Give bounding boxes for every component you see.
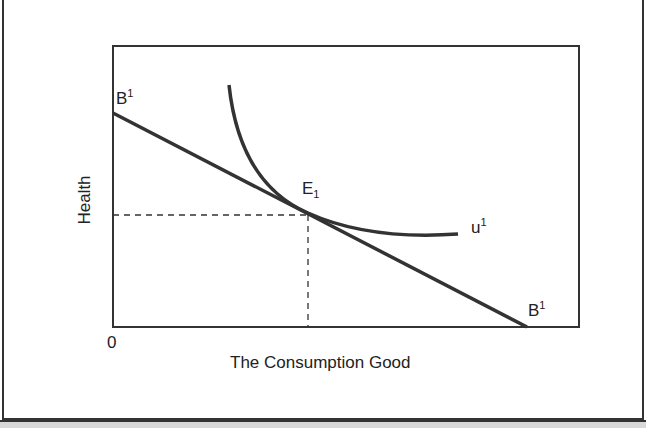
plot-area <box>113 46 579 327</box>
origin-label: 0 <box>107 334 116 351</box>
utility-label: u1 <box>471 219 487 236</box>
indifference-curve-u1 <box>229 85 458 235</box>
budget-line-b1 <box>113 113 527 327</box>
x-axis-label: The Consumption Good <box>230 354 411 371</box>
budget-label-top: B1 <box>116 90 133 107</box>
y-axis-label: Health <box>75 170 95 230</box>
equilibrium-label: E1 <box>302 180 319 197</box>
budget-label-bottom: B1 <box>528 302 545 319</box>
